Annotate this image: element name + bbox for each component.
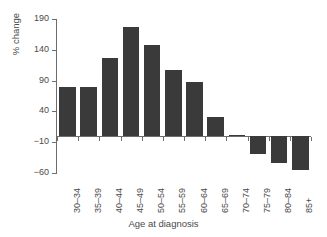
x-axis-tick-label: 75–79 — [262, 188, 272, 213]
x-axis-tick-label: 80–84 — [283, 188, 293, 213]
bar — [186, 82, 203, 136]
bar — [271, 136, 288, 163]
x-axis-title: Age at diagnosis — [0, 218, 327, 229]
y-axis-tick-label: 140 — [9, 45, 49, 54]
x-axis-tick — [311, 137, 312, 141]
y-axis-tick-label: 190 — [9, 14, 49, 23]
x-axis-tick-label: 50–54 — [156, 188, 166, 213]
bar — [229, 135, 246, 136]
plot-area — [57, 19, 311, 173]
bar-chart: % change 1901409040−10−60 30–3435–3940–4… — [0, 0, 327, 237]
y-axis-tick-label: −60 — [9, 168, 49, 177]
y-axis-title: % change — [8, 0, 24, 74]
x-axis-tick-label: 35–39 — [93, 188, 103, 213]
x-axis-tick-label: 45–49 — [135, 188, 145, 213]
x-axis-tick-label: 40–44 — [114, 188, 124, 213]
y-axis-tick — [52, 173, 57, 174]
bar — [250, 136, 267, 154]
bar — [292, 136, 309, 170]
bar — [102, 58, 119, 136]
bar — [59, 87, 76, 136]
x-axis-tick-label: 55–59 — [177, 188, 187, 213]
bar — [123, 27, 140, 136]
x-axis-tick-label: 85+ — [304, 198, 314, 213]
x-axis-tick-label: 65–69 — [220, 188, 230, 213]
y-axis-tick-label: 90 — [9, 76, 49, 85]
x-axis-tick-label: 60–64 — [199, 188, 209, 213]
y-axis-tick-label: −10 — [9, 137, 49, 146]
y-axis-tick-label: 40 — [9, 106, 49, 115]
x-axis-tick-label: 70–74 — [241, 188, 251, 213]
bar — [80, 87, 97, 136]
bar — [207, 117, 224, 136]
bar — [144, 45, 161, 136]
x-axis-tick-label: 30–34 — [72, 188, 82, 213]
bar — [165, 70, 182, 136]
